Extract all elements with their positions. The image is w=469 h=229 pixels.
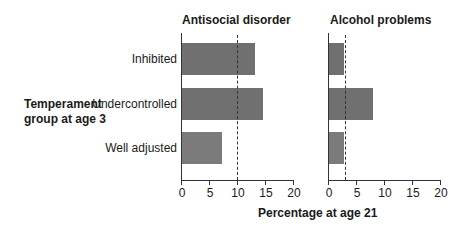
category-label-undercontrolled: Undercontrolled [67,97,177,111]
tick-mark [237,180,238,185]
tick-label: 20 [431,186,451,200]
tick-mark [293,180,294,185]
x-axis-label: Percentage at age 21 [258,206,377,220]
tick-mark [356,180,357,185]
category-label-inhibited: Inhibited [67,52,177,66]
panel-title-antisocial: Antisocial disorder [182,13,291,27]
bar-inhibited [182,43,255,75]
tick-label: 10 [228,186,248,200]
tick-mark [412,180,413,185]
tick-mark [181,180,182,185]
tick-mark [328,180,329,185]
reference-line [345,35,346,180]
bar-inhibited [329,43,344,75]
bar-undercontrolled [329,88,373,120]
category-label-well-adjusted: Well adjusted [67,141,177,155]
tick-mark [209,180,210,185]
tick-label: 5 [347,186,367,200]
tick-label: 15 [403,186,423,200]
tick-mark [440,180,441,185]
reference-line [237,35,238,180]
tick-mark [265,180,266,185]
tick-label: 0 [319,186,339,200]
tick-label: 20 [284,186,304,200]
tick-label: 15 [256,186,276,200]
tick-label: 5 [200,186,220,200]
tick-label: 0 [172,186,192,200]
bar-well-adjusted [329,132,344,164]
bar-undercontrolled [182,88,263,120]
y-axis-label-line2: group at age 3 [24,112,106,127]
panel-title-alcohol: Alcohol problems [330,13,431,27]
tick-label: 10 [375,186,395,200]
tick-mark [384,180,385,185]
bar-well-adjusted [182,132,222,164]
